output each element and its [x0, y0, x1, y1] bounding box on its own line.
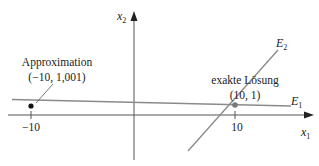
y-axis-label: x2 — [116, 9, 126, 25]
x-tick-label-minus10: −10 — [22, 121, 40, 133]
exact-solution-title: exakte Lösung — [211, 74, 279, 87]
exact-solution-coords: (10, 1) — [230, 89, 261, 102]
approximation-title: Approximation — [22, 56, 93, 69]
line-e1-label: E1 — [290, 94, 302, 110]
approximation-coords: (−10, 1,001) — [28, 71, 85, 84]
linear-system-diagram: x2 x1 −10 10 E1 E2 Approximation (−10, 1… — [0, 0, 319, 166]
approximation-point — [28, 103, 33, 108]
x-tick-label-10: 10 — [231, 121, 243, 133]
exact-solution-point — [232, 102, 238, 108]
line-e2-label: E2 — [275, 36, 287, 52]
x-axis-arrow-icon — [304, 112, 314, 119]
y-axis-arrow-icon — [131, 11, 138, 21]
x-axis-label: x1 — [300, 125, 310, 141]
